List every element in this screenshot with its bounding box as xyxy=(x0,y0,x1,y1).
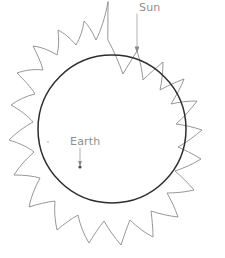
sun-leader-arrowhead xyxy=(135,47,140,54)
sun-label: Sun xyxy=(139,1,161,14)
earth-marker-dot xyxy=(78,165,81,168)
diagram-canvas: Sun Earth xyxy=(0,0,225,258)
earth-leader-group xyxy=(78,148,82,167)
stray-speck xyxy=(47,141,49,143)
sun-leader-group xyxy=(135,14,140,53)
sun-earth-diagram: Sun Earth xyxy=(0,0,225,258)
sun-disc xyxy=(38,55,186,203)
earth-label: Earth xyxy=(70,135,101,148)
